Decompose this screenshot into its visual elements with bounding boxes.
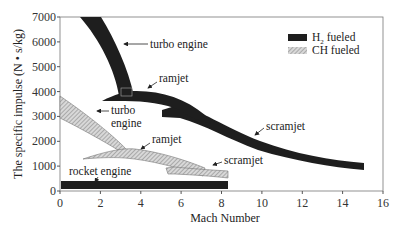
label-h2-ramjet: ramjet [159,72,189,85]
svg-text:2000: 2000 [32,134,56,148]
svg-text:1000: 1000 [32,159,56,173]
x-axis: 0 2 4 6 8 10 12 14 16 [57,191,389,210]
svg-text:5000: 5000 [32,60,56,74]
svg-text:12: 12 [296,196,308,210]
label-ch-turbo-1: turbo [111,104,136,116]
legend-swatch-ch [288,47,307,54]
svg-text:7000: 7000 [32,10,56,24]
label-ch-ramjet: ramjet [152,133,182,146]
svg-text:0: 0 [57,196,63,210]
legend-swatch-h2 [288,34,307,41]
svg-text:8: 8 [219,196,225,210]
label-h2-turbo: turbo engine [150,38,208,51]
label-rocket: rocket engine [69,165,131,178]
svg-text:0: 0 [50,184,56,198]
svg-text:6: 6 [178,196,184,210]
y-axis-label: The specific impulse (N • s/kg) [11,29,25,179]
svg-text:10: 10 [256,196,268,210]
chart: turbo engine ramjet scramjet turbo engin… [0,0,402,237]
svg-text:16: 16 [377,196,389,210]
legend-label-ch: CH fueled [312,44,360,56]
label-h2-scramjet: scramjet [266,120,306,133]
x-axis-label: Mach Number [190,211,260,225]
svg-text:14: 14 [337,196,349,210]
y-axis: 0 1000 2000 3000 4000 5000 6000 7000 [32,10,60,198]
svg-text:6000: 6000 [32,35,56,49]
svg-text:2: 2 [97,196,103,210]
svg-text:4: 4 [138,196,144,210]
svg-text:4000: 4000 [32,85,56,99]
rocket-engine-bar [61,181,228,189]
svg-text:3000: 3000 [32,109,56,123]
label-ch-scramjet: scramjet [224,154,264,167]
label-ch-turbo-2: engine [111,117,142,130]
